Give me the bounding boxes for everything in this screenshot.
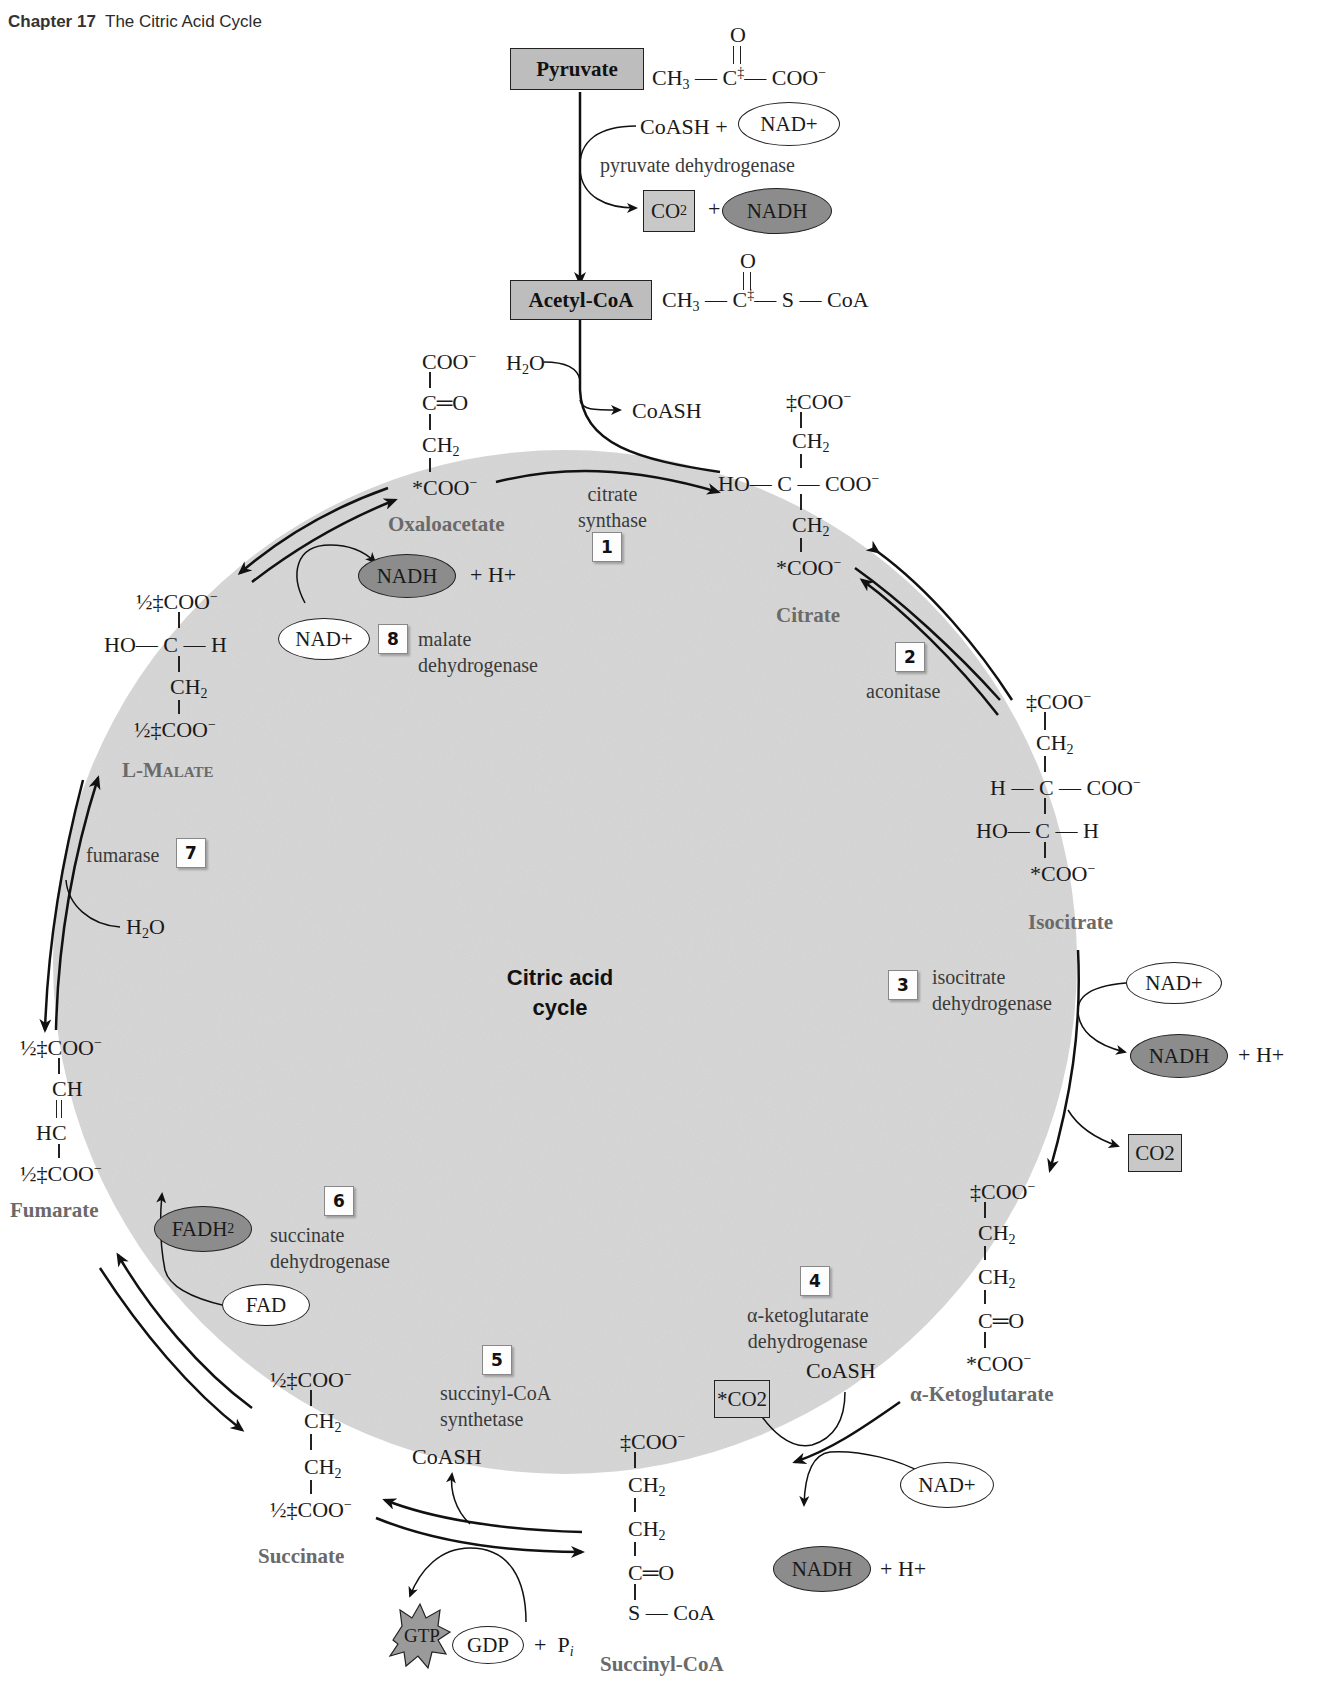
step8-nadh: NADH [358, 554, 456, 598]
fumarate-name: Fumarate [10, 1198, 99, 1223]
step-8-badge: 8 [378, 624, 408, 654]
step3-nad-plus: NAD+ [1126, 962, 1222, 1004]
isocitrate-name: Isocitrate [1028, 910, 1113, 935]
step3-co2-box: CO2 [1128, 1134, 1182, 1172]
step8-nad-plus: NAD+ [278, 618, 370, 660]
co2-label: CO2 [1135, 1141, 1175, 1166]
nad-label: NAD+ [1145, 971, 1202, 996]
step4-co2-box: *CO2 [714, 1380, 770, 1418]
pyruvate-label-box: Pyruvate [510, 48, 644, 90]
cycle-label-line: cycle [490, 993, 630, 1023]
nad-label: NAD+ [760, 112, 817, 137]
succinate-name: Succinate [258, 1544, 344, 1569]
acetyl-coa-label-box: Acetyl-CoA [510, 280, 652, 320]
pdh-co2-box: CO2 [643, 190, 695, 232]
enzyme-line: dehydrogenase [747, 1328, 869, 1354]
step5-phosphate: + Pi [534, 1634, 574, 1659]
l-malate-name: L-Malate [122, 758, 213, 783]
pdh-nadh: NADH [722, 188, 832, 234]
enzyme-line: citrate [578, 481, 647, 507]
enzyme-line: succinate [270, 1222, 390, 1248]
step-3-badge: 3 [888, 970, 918, 1000]
step4-nadh: NADH [773, 1546, 871, 1592]
step-2-badge: 2 [895, 642, 925, 672]
gtp-label: GTP [404, 1626, 440, 1645]
enzyme-line: succinyl-CoA [440, 1380, 551, 1406]
nad-label: NAD+ [918, 1473, 975, 1498]
enzyme-line: dehydrogenase [270, 1248, 390, 1274]
step6-fad: FAD [222, 1284, 310, 1326]
pyruvate-dehydrogenase-label: pyruvate dehydrogenase [600, 152, 795, 178]
step-5-badge: 5 [482, 1345, 512, 1375]
pdh-nad-plus: NAD+ [738, 102, 840, 146]
malate-dehydrogenase-label: malate dehydrogenase [418, 626, 538, 678]
nadh-label: NADH [1149, 1044, 1210, 1069]
step4-nad-plus: NAD+ [900, 1462, 994, 1508]
fad-label: FAD [246, 1293, 286, 1318]
citrate-synthase-label: citrate synthase [578, 481, 647, 533]
succinyl-coa-synthetase-label: succinyl-CoA synthetase [440, 1380, 551, 1432]
step5-coash: CoASH [412, 1446, 482, 1468]
nad-label: NAD+ [295, 627, 352, 652]
step7-water: H2O [126, 916, 165, 941]
citric-acid-cycle-label: Citric acid cycle [490, 963, 630, 1023]
enzyme-line: isocitrate [932, 964, 1052, 990]
cycle-label-line: Citric acid [490, 963, 630, 993]
step4-proton: + H+ [880, 1558, 926, 1580]
citrate-name: Citrate [776, 603, 840, 628]
enzyme-line: α-ketoglutarate [747, 1302, 869, 1328]
step-1-badge: 1 [592, 532, 622, 562]
gdp-label: GDP [467, 1633, 509, 1658]
fumarase-label: fumarase [86, 842, 159, 868]
alpha-kg-dehydrogenase-label: α-ketoglutarate dehydrogenase [747, 1302, 869, 1354]
enzyme-line: malate [418, 626, 538, 652]
pyruvate-label: Pyruvate [536, 57, 618, 82]
step3-nadh: NADH [1130, 1034, 1228, 1078]
nadh-label: NADH [747, 199, 808, 224]
succinate-dehydrogenase-label: succinate dehydrogenase [270, 1222, 390, 1274]
succinyl-coa-name: Succinyl-CoA [600, 1652, 724, 1677]
isocitrate-dehydrogenase-label: isocitrate dehydrogenase [932, 964, 1052, 1016]
pdh-coash: CoASH + [640, 116, 728, 138]
step4-coash: CoASH [806, 1360, 876, 1382]
step1-coash: CoASH [632, 400, 702, 422]
pdh-plus: + [708, 198, 720, 220]
step3-proton: + H+ [1238, 1044, 1284, 1066]
alpha-ketoglutarate-name: α-Ketoglutarate [910, 1382, 1054, 1407]
step6-fadh2: FADH2 [154, 1206, 252, 1252]
step-6-badge: 6 [324, 1186, 354, 1216]
acetyl-coa-label: Acetyl-CoA [529, 288, 634, 313]
enzyme-line: synthase [578, 507, 647, 533]
oxaloacetate-name: Oxaloacetate [388, 512, 505, 537]
enzyme-line: synthetase [440, 1406, 551, 1432]
co2-label: *CO2 [717, 1387, 767, 1412]
step8-proton: + H+ [470, 564, 516, 586]
aconitase-label: aconitase [866, 678, 940, 704]
step5-gdp: GDP [452, 1626, 524, 1664]
step-7-badge: 7 [176, 838, 206, 868]
nadh-label: NADH [792, 1557, 853, 1582]
enzyme-line: dehydrogenase [932, 990, 1052, 1016]
step1-water: H2O [506, 352, 545, 377]
nadh-label: NADH [377, 564, 438, 589]
enzyme-line: dehydrogenase [418, 652, 538, 678]
step-4-badge: 4 [800, 1266, 830, 1296]
